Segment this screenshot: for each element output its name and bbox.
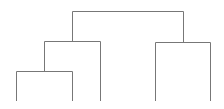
- dendrogram: [0, 0, 224, 109]
- dendrogram-link-merge-root: [73, 12, 184, 43]
- dendrogram-link-merge-a: [17, 72, 73, 102]
- dendrogram-link-merge-c: [156, 43, 211, 102]
